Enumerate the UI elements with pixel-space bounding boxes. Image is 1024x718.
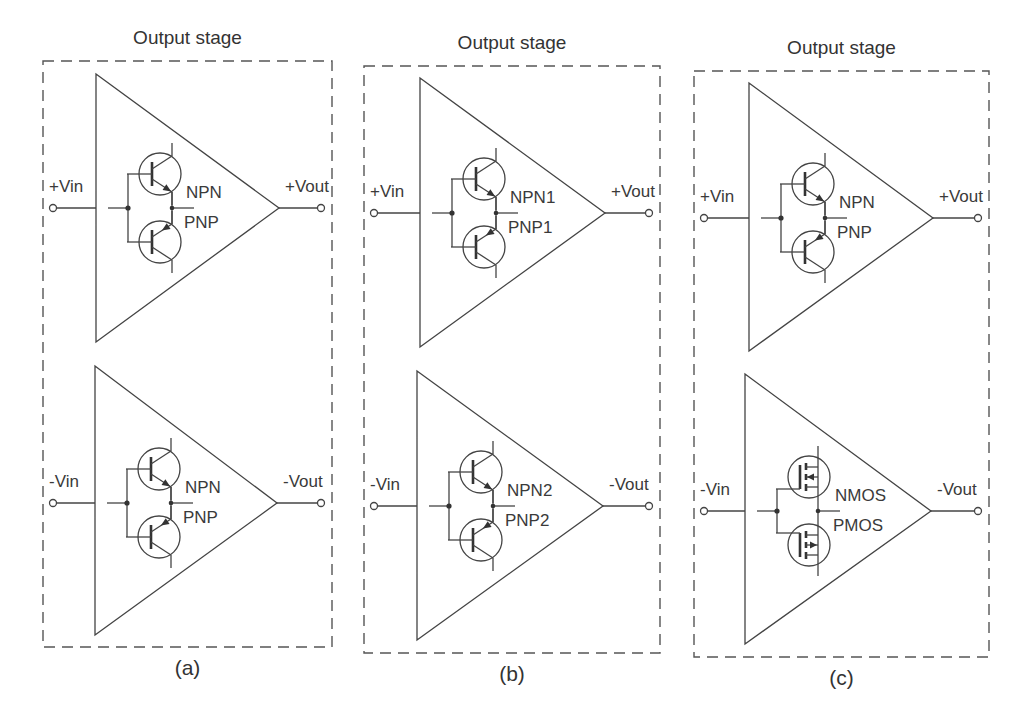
- panel-b-lower-stage-bottom-device-label: PNP2: [505, 512, 549, 529]
- panel-b-boundary-box: [364, 66, 660, 653]
- panel-b-lower-stage-input-junction-dot-icon: [446, 503, 451, 508]
- panel-a-upper-stage-bottom-device-emitter-arrow-icon: [162, 223, 171, 230]
- panel-c-upper-stage-top-device-emitter-arrow-icon: [816, 194, 825, 201]
- panel-b-upper-stage-input-label: +Vin: [370, 183, 404, 200]
- panel-c-lower-stage-input-label: -Vin: [700, 481, 730, 498]
- panel-c-lower-stage-output-terminal-icon: [975, 508, 982, 515]
- panel-c-lower-stage-amplifier-triangle-icon: [745, 374, 931, 644]
- panel-c-lower-stage-output-label: -Vout: [937, 481, 977, 498]
- panel-b-lower-stage-top-device-label: NPN2: [507, 482, 552, 499]
- panel-b-lower-stage-bottom-device-emitter-arrow-icon: [483, 521, 492, 528]
- panel-c-upper-stage-output-terminal-icon: [975, 215, 982, 222]
- panel-a-lower-stage-input-label: -Vin: [49, 473, 79, 490]
- panel-a-lower-stage-bottom-device-emitter-arrow-icon: [161, 518, 170, 525]
- panel-b-upper-stage-input-junction-dot-icon: [449, 210, 454, 215]
- panel-a-title: Output stage: [133, 28, 242, 47]
- panel-a-upper-stage-bottom-device-label: PNP: [184, 214, 219, 231]
- panel-c-lower-stage-top-device-label: NMOS: [835, 487, 886, 504]
- panel-a-lower-stage-top-device-emitter-arrow-icon: [162, 479, 171, 486]
- panel-c-upper-stage-top-device-upper-lead: [805, 166, 825, 179]
- panel-c-caption: (c): [829, 667, 854, 688]
- panel-a-caption: (a): [175, 657, 201, 678]
- panel-c-upper-stage-bottom-device-lower-lead: [805, 257, 825, 270]
- panel-a-upper-stage-bottom-device-lower-lead: [152, 247, 172, 260]
- panel-a-upper-stage-input-label: +Vin: [49, 178, 83, 195]
- panel-b-upper-stage-output-label: +Vout: [611, 183, 655, 200]
- panel-b-lower-stage-bottom-device-lower-lead: [473, 545, 493, 558]
- output-stage-figure: Output stage(a)+Vin+VoutNPNPNP-Vin-VoutN…: [0, 0, 1024, 718]
- panel-b-lower-stage-top-device-upper-lead: [473, 454, 493, 467]
- panel-b-title: Output stage: [458, 33, 567, 52]
- panel-b-caption: (b): [499, 663, 525, 684]
- panel-b-lower-stage-top-device-emitter-arrow-icon: [484, 482, 493, 489]
- panel-a-lower-stage-top-device-label: NPN: [185, 479, 221, 496]
- panel-c-upper-stage-output-junction-dot-icon: [823, 216, 828, 221]
- panel-a-upper-stage-top-device-upper-lead: [152, 156, 172, 169]
- panel-b-upper-stage-top-device-emitter-arrow-icon: [487, 189, 496, 196]
- panel-b-lower-stage-output-label: -Vout: [609, 476, 649, 493]
- panel-c-lower-stage-input-terminal-icon: [701, 508, 708, 515]
- panel-a-upper-stage-output-junction-dot-icon: [170, 206, 175, 211]
- panel-c-boundary-box: [694, 71, 989, 657]
- panel-b-upper-stage-bottom-device-emitter-arrow-icon: [486, 228, 495, 235]
- panel-a-upper-stage-output-label: +Vout: [285, 178, 329, 195]
- panel-c-upper-stage-bottom-device-emitter-arrow-icon: [815, 233, 824, 240]
- panel-b-upper-stage-input-terminal-icon: [371, 210, 378, 217]
- panel-a-lower-stage-output-junction-dot-icon: [169, 501, 174, 506]
- panel-a-lower-stage-bottom-device-lower-lead: [151, 542, 171, 555]
- panel-b-upper-stage-bottom-device-label: PNP1: [508, 219, 552, 236]
- panel-a-lower-stage-output-terminal-icon: [318, 500, 325, 507]
- panel-b-lower-stage-input-terminal-icon: [371, 503, 378, 510]
- panel-c-upper-stage-top-device-label: NPN: [839, 194, 875, 211]
- panel-c-lower-stage-top-device-body-arrow-icon: [807, 474, 814, 481]
- panel-b-upper-stage-output-junction-dot-icon: [494, 211, 499, 216]
- panel-c-upper-stage-input-terminal-icon: [701, 215, 708, 222]
- panel-a-upper-stage-top-device-label: NPN: [186, 184, 222, 201]
- panel-c-upper-stage-output-label: +Vout: [939, 188, 983, 205]
- panel-c-lower-stage-bottom-device-label: PMOS: [833, 517, 883, 534]
- panel-c-lower-stage-bottom-device-body-arrow-icon: [810, 542, 817, 549]
- panel-a-lower-stage-output-label: -Vout: [283, 473, 323, 490]
- panel-a-lower-stage-input-terminal-icon: [50, 500, 57, 507]
- panel-c-lower-stage-input-junction-dot-icon: [774, 508, 779, 513]
- panel-c-upper-stage-input-label: +Vin: [700, 188, 734, 205]
- panel-b-upper-stage-top-device-upper-lead: [476, 161, 496, 174]
- panel-b-upper-stage-bottom-device-lower-lead: [476, 252, 496, 265]
- schematic-canvas: [0, 0, 1024, 718]
- panel-a-upper-stage-output-terminal-icon: [318, 205, 325, 212]
- panel-c-upper-stage-input-junction-dot-icon: [778, 215, 783, 220]
- panel-b-upper-stage-top-device-label: NPN1: [510, 189, 555, 206]
- panel-a-upper-stage-top-device-emitter-arrow-icon: [163, 184, 172, 191]
- panel-c-lower-stage-output-junction-dot-icon: [816, 509, 821, 514]
- panel-a-lower-stage-amplifier-triangle-icon: [95, 366, 277, 635]
- panel-c-upper-stage-bottom-device-label: PNP: [837, 224, 872, 241]
- panel-a-upper-stage-input-terminal-icon: [50, 205, 57, 212]
- panel-a-upper-stage-input-junction-dot-icon: [125, 205, 130, 210]
- panel-b-lower-stage-input-label: -Vin: [370, 476, 400, 493]
- panel-a-boundary-box: [43, 61, 332, 647]
- panel-b-lower-stage-output-terminal-icon: [646, 503, 653, 510]
- panel-c-title: Output stage: [787, 38, 896, 57]
- panel-a-lower-stage-top-device-upper-lead: [151, 451, 171, 464]
- panel-a-lower-stage-bottom-device-label: PNP: [183, 509, 218, 526]
- panel-c-upper-stage-amplifier-triangle-icon: [749, 83, 933, 351]
- panel-b-upper-stage-output-terminal-icon: [646, 210, 653, 217]
- panel-b-lower-stage-output-junction-dot-icon: [491, 504, 496, 509]
- panel-a-lower-stage-input-junction-dot-icon: [124, 500, 129, 505]
